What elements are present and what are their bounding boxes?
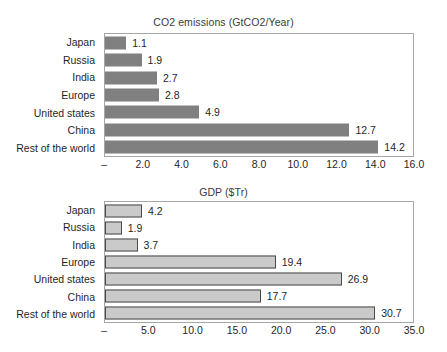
category-axis-labels: JapanRussiaIndiaEuropeUnited statesChina…	[0, 201, 99, 323]
bar	[105, 290, 261, 303]
bar-row: 3.7	[105, 236, 413, 253]
x-axis-tick: 10.0	[182, 324, 202, 336]
category-label: Japan	[0, 33, 99, 51]
bar-row: 1.1	[105, 34, 413, 51]
category-label: United states	[0, 271, 99, 288]
x-axis-tick: 8.0	[252, 158, 267, 170]
category-label: India	[0, 68, 99, 86]
category-label: United states	[0, 104, 99, 122]
bar	[105, 54, 142, 67]
x-axis-ticks: –5.010.015.020.025.030.035.0	[104, 324, 414, 340]
x-axis-zero-tick: –	[101, 158, 107, 170]
bar-value-label: 3.7	[138, 239, 159, 251]
bar-row: 1.9	[105, 51, 413, 68]
bar-row: 2.8	[105, 86, 413, 103]
bar-value-label: 2.7	[157, 72, 178, 84]
plot-area: 4.21.93.719.426.917.730.7	[104, 201, 414, 323]
category-label: Europe	[0, 86, 99, 104]
bar	[105, 273, 342, 286]
chart-title: CO2 emissions (GtCO2/Year)	[0, 16, 447, 28]
bar-value-label: 1.9	[122, 222, 143, 234]
category-axis-labels: JapanRussiaIndiaEuropeUnited statesChina…	[0, 33, 99, 157]
bar-row: 14.2	[105, 139, 413, 156]
x-axis-tick: 4.0	[174, 158, 189, 170]
category-label: China	[0, 122, 99, 140]
bar-row: 2.7	[105, 69, 413, 86]
category-label: Rest of the world	[0, 306, 99, 323]
category-label: Japan	[0, 201, 99, 218]
chart-title: GDP ($Tr)	[0, 186, 447, 198]
bar-value-label: 12.7	[349, 124, 375, 136]
bar	[105, 255, 276, 268]
bar	[105, 106, 199, 119]
bar-row: 17.7	[105, 288, 413, 305]
bar-row: 4.9	[105, 104, 413, 121]
x-axis-tick: 15.0	[227, 324, 247, 336]
x-axis-tick: 30.0	[359, 324, 379, 336]
category-label: China	[0, 288, 99, 305]
bar-value-label: 17.7	[261, 290, 287, 302]
bar-row: 1.9	[105, 219, 413, 236]
gdp-chart: GDP ($Tr) JapanRussiaIndiaEuropeUnited s…	[0, 180, 447, 352]
bar-row: 4.2	[105, 202, 413, 219]
bar-value-label: 19.4	[276, 256, 302, 268]
x-axis-tick: 14.0	[365, 158, 385, 170]
bar-value-label: 26.9	[342, 273, 368, 285]
bar-value-label: 30.7	[375, 307, 401, 319]
bar-value-label: 1.9	[142, 54, 163, 66]
bar-row: 30.7	[105, 305, 413, 322]
bar	[105, 71, 157, 84]
bar-value-label: 4.9	[199, 106, 220, 118]
bar-value-label: 1.1	[126, 37, 147, 49]
bar	[105, 88, 159, 101]
bar-row: 19.4	[105, 253, 413, 270]
bar-rows: 4.21.93.719.426.917.730.7	[105, 202, 413, 322]
x-axis-tick: 35.0	[404, 324, 424, 336]
x-axis-tick: 16.0	[404, 158, 424, 170]
x-axis-tick: 20.0	[271, 324, 291, 336]
bar	[105, 221, 122, 234]
bar	[105, 36, 126, 49]
category-label: India	[0, 236, 99, 253]
category-label: Rest of the world	[0, 139, 99, 157]
bar-row: 26.9	[105, 271, 413, 288]
x-axis-tick: 6.0	[213, 158, 228, 170]
bar-row: 12.7	[105, 121, 413, 138]
x-axis-zero-tick: –	[101, 324, 107, 336]
category-label: Europe	[0, 253, 99, 270]
bar	[105, 141, 378, 154]
bar	[105, 123, 349, 136]
bar-value-label: 4.2	[142, 205, 163, 217]
x-axis-tick: 12.0	[326, 158, 346, 170]
bar	[105, 204, 142, 217]
bar-rows: 1.11.92.72.84.912.714.2	[105, 34, 413, 156]
category-label: Russia	[0, 51, 99, 69]
bar	[105, 238, 138, 251]
bar-value-label: 2.8	[159, 89, 180, 101]
bar-value-label: 14.2	[378, 141, 404, 153]
x-axis-tick: 2.0	[135, 158, 150, 170]
x-axis-tick: 25.0	[315, 324, 335, 336]
co2-emissions-chart: CO2 emissions (GtCO2/Year) JapanRussiaIn…	[0, 0, 447, 180]
x-axis-tick: 10.0	[288, 158, 308, 170]
x-axis-ticks: –2.04.06.08.010.012.014.016.0	[104, 158, 414, 174]
plot-area: 1.11.92.72.84.912.714.2	[104, 33, 414, 157]
category-label: Russia	[0, 218, 99, 235]
bar	[105, 307, 375, 320]
x-axis-tick: 5.0	[141, 324, 156, 336]
